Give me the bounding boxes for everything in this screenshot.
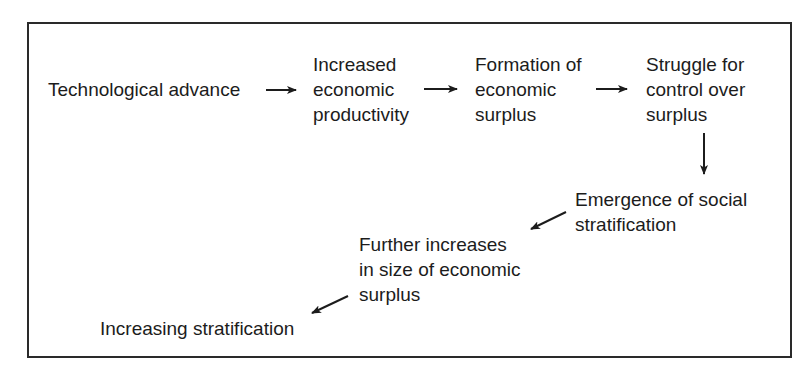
arrow-down-left-icon: [531, 212, 566, 229]
arrows-layer: [0, 0, 812, 382]
arrow-down-left-icon: [312, 296, 348, 313]
